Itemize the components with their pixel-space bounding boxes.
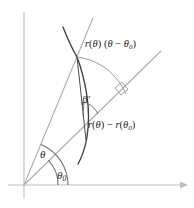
x-axis-arrowhead xyxy=(180,182,188,189)
arc-length-close-paren-2: ) xyxy=(132,38,136,49)
arc-length-theta-2: θ xyxy=(107,38,112,49)
theta-zero-ray xyxy=(24,51,161,185)
figure-container: r(θ) (θ − θ0) r(θ) − r(θ0) β′ θ θ0 xyxy=(0,0,194,208)
radial-diff-minus: − xyxy=(107,119,113,130)
radial-diff-close-paren-1: ) xyxy=(101,119,105,130)
arc-length-minus: − xyxy=(115,38,121,49)
arc-length-arc xyxy=(77,57,126,94)
arc-length-close-paren-1: ) xyxy=(98,38,102,49)
radial-diff-subscript: 0 xyxy=(128,124,132,132)
diagram-canvas xyxy=(0,0,194,208)
radial-difference-label: r(θ) − r(θ0) xyxy=(88,120,135,131)
arc-length-group xyxy=(77,57,126,94)
beta-prime-label: β′ xyxy=(82,94,90,105)
arc-length-label: r(θ) (θ − θ0) xyxy=(85,39,136,50)
theta-zero-angle-label: θ0 xyxy=(57,170,66,181)
theta-angle-label: θ xyxy=(40,149,45,160)
arc-length-subscript: 0 xyxy=(129,43,133,51)
radial-diff-close-paren-2: ) xyxy=(132,119,136,130)
theta-zero-subscript: 0 xyxy=(62,174,66,183)
